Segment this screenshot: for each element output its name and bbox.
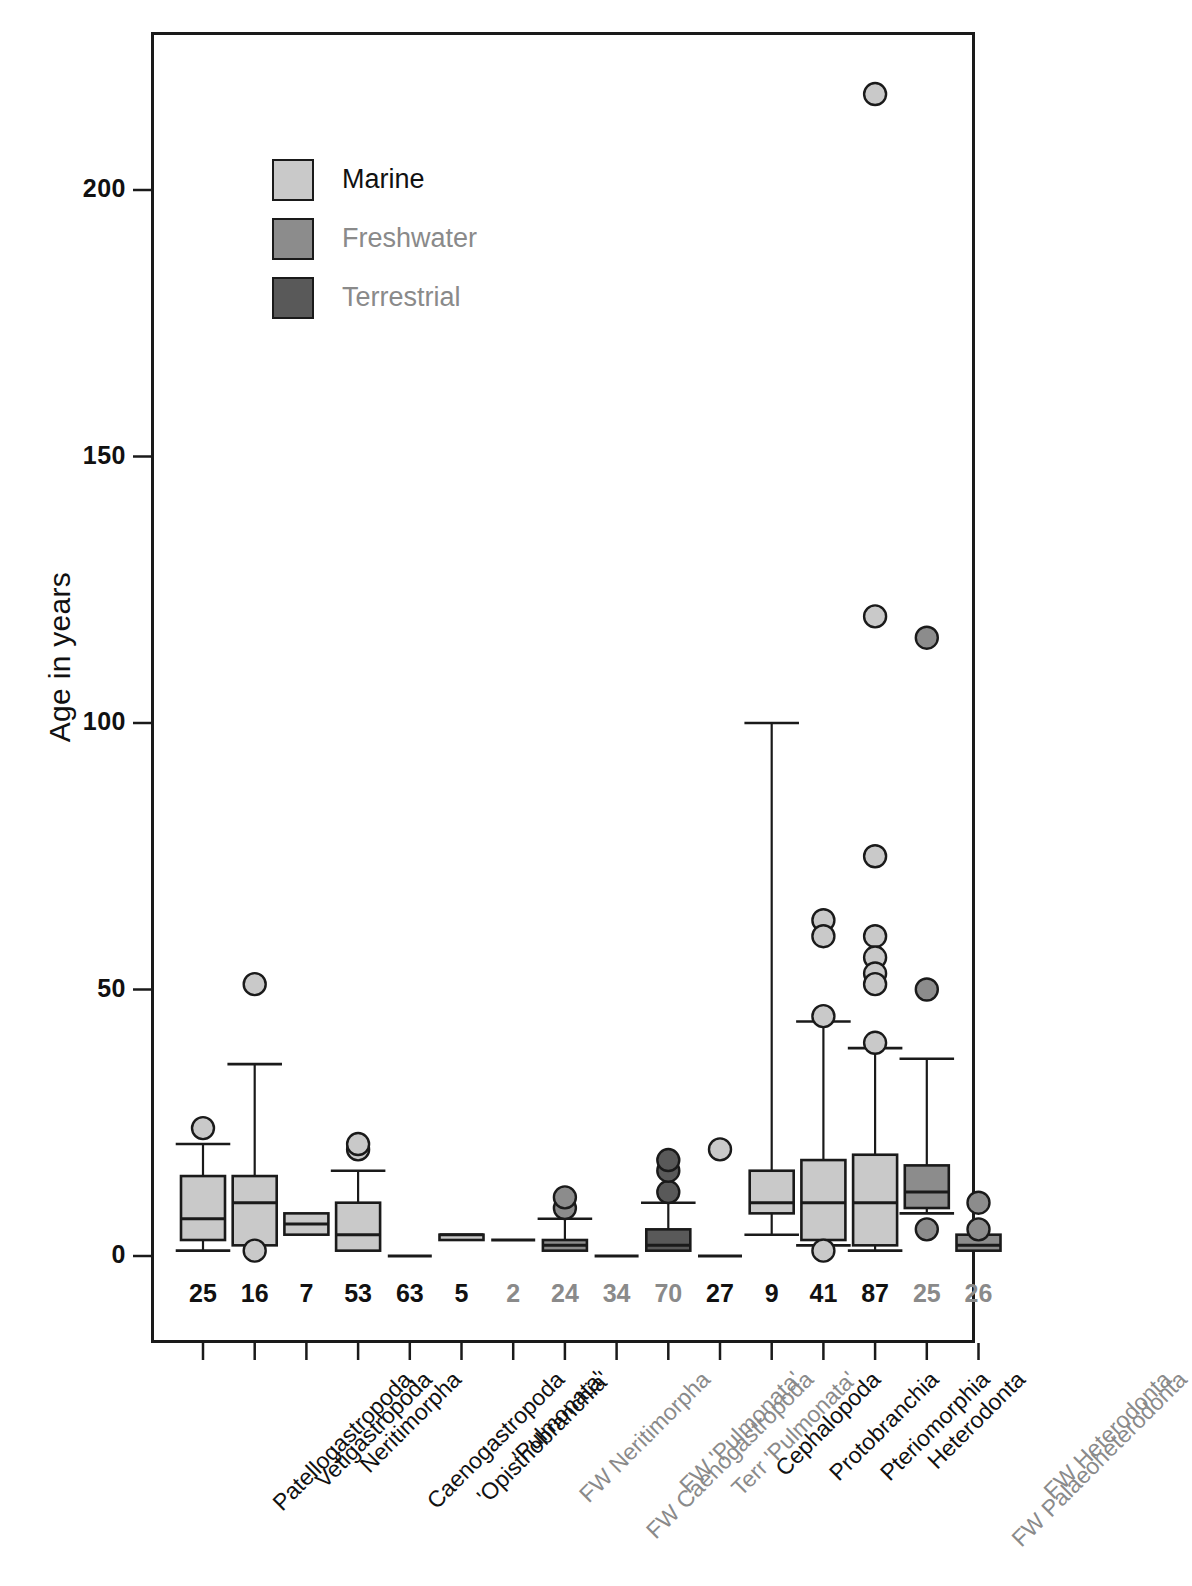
outlier-point <box>812 1240 834 1262</box>
outlier-point <box>864 605 886 627</box>
box-plot-14 <box>900 627 955 1241</box>
box-plot-5 <box>440 1235 484 1240</box>
y-axis-ticks <box>133 190 151 1256</box>
x-axis-label: FW Heterodonta <box>1038 1366 1176 1504</box>
outlier-point <box>244 973 266 995</box>
outlier-point <box>864 845 886 867</box>
outlier-point <box>916 1218 938 1240</box>
outlier-point <box>864 973 886 995</box>
box-body <box>905 1165 949 1208</box>
box-body <box>336 1203 380 1251</box>
box-plot-9 <box>641 1149 696 1251</box>
box-body <box>233 1176 277 1245</box>
outlier-point <box>916 979 938 1001</box>
box-plot-15 <box>957 1192 1001 1251</box>
box-plot-11 <box>744 723 799 1235</box>
outlier-point <box>916 627 938 649</box>
outlier-point <box>812 925 834 947</box>
box-plot-0 <box>176 1117 231 1251</box>
x-axis-ticks <box>203 1343 979 1360</box>
box-body <box>853 1155 897 1246</box>
box-plot-13 <box>848 83 903 1251</box>
box-body <box>801 1160 845 1240</box>
outlier-point <box>968 1218 990 1240</box>
box-plot-7 <box>538 1186 593 1250</box>
box-plot-12 <box>796 909 851 1261</box>
outlier-point <box>968 1192 990 1214</box>
outlier-point <box>812 1005 834 1027</box>
box-body <box>646 1229 690 1250</box>
outlier-point <box>709 1138 731 1160</box>
outlier-point <box>864 1032 886 1054</box>
outlier-point <box>864 925 886 947</box>
outlier-point <box>554 1186 576 1208</box>
outlier-point <box>347 1133 369 1155</box>
outlier-point <box>864 83 886 105</box>
outlier-point <box>657 1149 679 1171</box>
outlier-point <box>657 1181 679 1203</box>
box-plot-3 <box>331 1133 386 1251</box>
box-body <box>750 1171 794 1214</box>
box-plot-10 <box>698 1138 742 1256</box>
box-body <box>181 1176 225 1240</box>
box-plot-1 <box>227 973 282 1262</box>
outlier-point <box>244 1240 266 1262</box>
box-plot-2 <box>284 1213 328 1234</box>
outlier-point <box>192 1117 214 1139</box>
